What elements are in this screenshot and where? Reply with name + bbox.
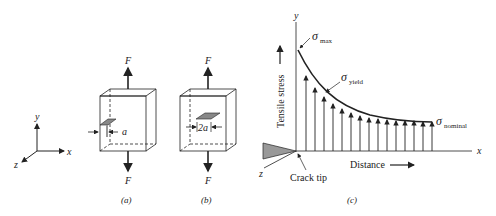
y-axis-label: y [293,10,299,21]
z-axis-label: z [258,168,263,179]
sigma-yield-sub: yield [349,78,363,86]
force-bottom-label: F [124,175,132,186]
caption-a: (a) [121,195,132,205]
sigma-nominal-sub: nominal [444,122,467,130]
stress-curve [298,50,432,122]
panel-c-stress-plot: y x z σ max σ [258,10,482,205]
force-top-label: F [124,55,132,66]
center-crack [196,113,220,119]
sigma-yield-symbol: σ [341,70,348,84]
panel-b-specimen: F 2a F (b) [180,55,236,205]
sigma-max-symbol: σ [312,29,319,43]
caption-b: (b) [201,195,212,205]
sigma-max-sub: max [320,37,333,45]
force-bottom-label: F [204,175,212,186]
axis-z-label: z [13,159,18,170]
crack-stress-figure: y x z F a F (a) F [0,0,496,216]
crack-wedge [263,143,296,159]
panel-a-specimen: F a F (a) [88,55,156,205]
coordinate-axes: y x z [13,111,72,170]
distance-label: Distance [350,159,386,170]
edge-crack [100,119,116,125]
sigma-nominal-symbol: σ [436,114,443,128]
axis-y-label: y [34,111,40,122]
caption-c: (c) [347,195,357,205]
stress-arrows [306,76,432,151]
crack-length-label: 2a [198,122,208,133]
x-axis-label: x [476,145,482,156]
tensile-stress-label: Tensile stress [275,74,286,128]
axis-x-label: x [66,146,72,157]
force-top-label: F [204,55,212,66]
crack-tip-label: Crack tip [290,172,327,183]
crack-length-label: a [122,126,127,137]
